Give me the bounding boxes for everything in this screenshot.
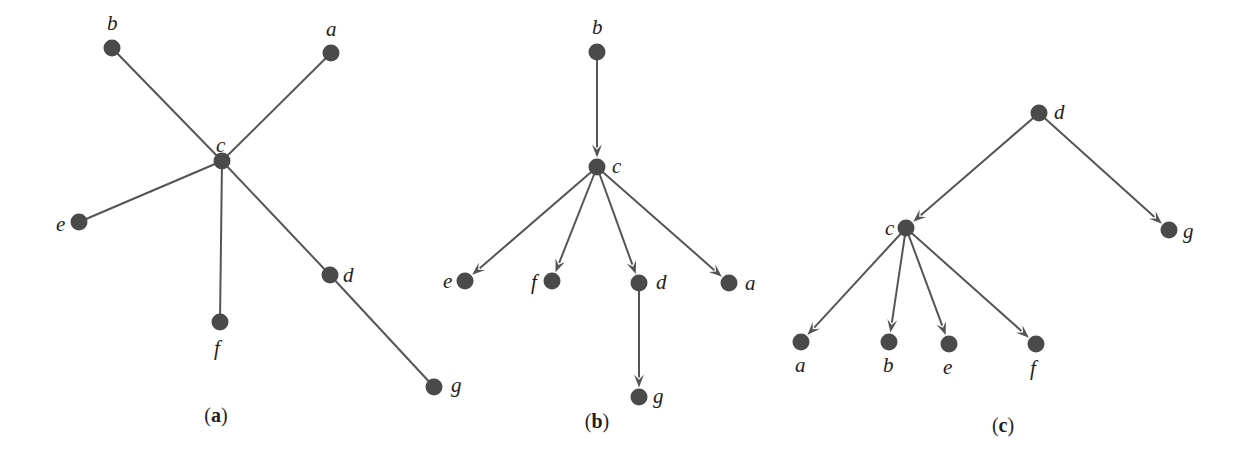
node-label-b: b bbox=[592, 15, 603, 39]
edge-c-a bbox=[814, 228, 906, 328]
tree-diagrams-canvas: bacefdg(a) bcefdag(b) dcgabef(c) bbox=[0, 0, 1240, 470]
node-g bbox=[426, 379, 443, 396]
panel-caption: (a) bbox=[204, 404, 227, 427]
node-label-a: a bbox=[745, 271, 756, 295]
node-label-f: f bbox=[214, 336, 223, 360]
node-c bbox=[589, 159, 606, 176]
node-label-d: d bbox=[1054, 100, 1065, 124]
node-label-c: c bbox=[216, 133, 226, 157]
node-label-d: d bbox=[343, 263, 354, 287]
node-label-e: e bbox=[443, 269, 452, 293]
node-a bbox=[793, 334, 810, 351]
edge-c-e bbox=[480, 167, 597, 268]
node-label-b: b bbox=[107, 11, 118, 35]
node-f bbox=[1028, 336, 1045, 353]
node-label-g: g bbox=[1183, 219, 1194, 243]
graph-figure: bacefdg(a) bcefdag(b) dcgabef(c) bbox=[0, 0, 1240, 470]
node-d bbox=[631, 275, 648, 292]
panel-b-rooted-tree-at-b: bcefdag(b) bbox=[443, 15, 756, 433]
edge-c-a bbox=[222, 53, 331, 161]
node-b bbox=[104, 40, 121, 57]
node-label-f: f bbox=[531, 270, 540, 294]
panel-c-rooted-tree-at-d: dcgabef(c) bbox=[793, 100, 1194, 437]
node-e bbox=[457, 273, 474, 290]
node-label-b: b bbox=[883, 353, 894, 377]
edge-d-c bbox=[921, 113, 1039, 215]
edge-c-e bbox=[79, 161, 222, 222]
node-b bbox=[589, 44, 606, 61]
node-label-a: a bbox=[326, 17, 337, 41]
panel-a-undirected-tree: bacefdg(a) bbox=[56, 11, 462, 427]
edge-c-f bbox=[906, 228, 1021, 331]
edge-c-a bbox=[597, 167, 714, 270]
node-c bbox=[898, 220, 915, 237]
node-label-d: d bbox=[656, 270, 667, 294]
node-label-e: e bbox=[56, 212, 65, 236]
node-label-c: c bbox=[885, 216, 895, 240]
node-e bbox=[941, 336, 958, 353]
node-f bbox=[544, 273, 561, 290]
node-b bbox=[881, 334, 898, 351]
node-label-e: e bbox=[943, 355, 952, 379]
node-d bbox=[1031, 105, 1048, 122]
node-g bbox=[631, 389, 648, 406]
edge-c-b bbox=[112, 48, 222, 161]
node-label-g: g bbox=[451, 373, 462, 397]
node-a bbox=[721, 275, 738, 292]
node-e bbox=[71, 214, 88, 231]
node-label-g: g bbox=[653, 384, 664, 408]
edge-c-f bbox=[220, 161, 222, 322]
node-label-c: c bbox=[612, 154, 622, 178]
edge-c-f bbox=[559, 167, 597, 263]
node-f bbox=[212, 314, 229, 331]
edge-d-g bbox=[330, 275, 434, 387]
edge-c-e bbox=[906, 228, 942, 326]
edge-d-g bbox=[1039, 113, 1155, 217]
node-g bbox=[1161, 222, 1178, 239]
panel-caption: (c) bbox=[992, 414, 1014, 437]
edge-c-d bbox=[222, 161, 330, 275]
node-label-a: a bbox=[795, 353, 806, 377]
node-d bbox=[322, 267, 339, 284]
node-a bbox=[323, 45, 340, 62]
node-label-f: f bbox=[1030, 356, 1039, 380]
panel-caption: (b) bbox=[585, 410, 609, 433]
